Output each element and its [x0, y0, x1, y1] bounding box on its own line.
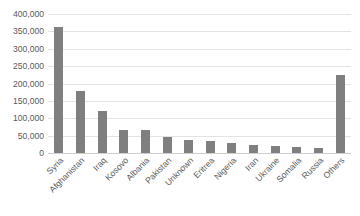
bar-slot [221, 14, 243, 153]
x-axis-tick-label: Iraq [92, 156, 109, 173]
bar-slot [91, 14, 113, 153]
y-axis-tick-label: 50,000 [0, 131, 44, 140]
x-axis-tick-label: Iran [243, 156, 260, 173]
x-axis-slot: Nigeria [221, 153, 243, 216]
bar[interactable] [249, 145, 258, 153]
x-axis-slot: Unknown [178, 153, 200, 216]
x-axis-slot: Kosovo [113, 153, 135, 216]
bar-slot [156, 14, 178, 153]
x-axis-slot: Albania [135, 153, 157, 216]
bar[interactable] [206, 141, 215, 153]
y-axis-tick-label: 100,000 [0, 114, 44, 123]
y-axis-tick-label: 250,000 [0, 62, 44, 71]
bar-slot [308, 14, 330, 153]
x-axis-slot: Iraq [91, 153, 113, 216]
y-axis-tick-label: 150,000 [0, 97, 44, 106]
y-axis-tick-label: 400,000 [0, 10, 44, 19]
y-axis-tick-label: 200,000 [0, 79, 44, 88]
bar[interactable] [54, 27, 63, 153]
x-axis-slot: Afghanistan [70, 153, 92, 216]
bar[interactable] [119, 130, 128, 153]
y-axis-tick-label: 300,000 [0, 44, 44, 53]
bar[interactable] [163, 137, 172, 153]
bar-slot [113, 14, 135, 153]
y-axis-tick-label: 0 [0, 149, 44, 158]
x-axis-slot: Iran [243, 153, 265, 216]
bar-slot [329, 14, 351, 153]
bar-slot [48, 14, 70, 153]
bar[interactable] [98, 111, 107, 153]
bar-slot [178, 14, 200, 153]
bar[interactable] [227, 143, 236, 153]
bar-slot [135, 14, 157, 153]
bar-series [48, 14, 351, 153]
bar-slot [286, 14, 308, 153]
x-axis-slot: Somalia [286, 153, 308, 216]
x-axis-slot: Eritrea [199, 153, 221, 216]
y-axis: 400,000350,000300,000250,000200,000150,0… [0, 14, 44, 153]
x-axis-slot: Others [329, 153, 351, 216]
bar[interactable] [336, 75, 345, 153]
x-axis-slot: Russia [308, 153, 330, 216]
bar-slot [70, 14, 92, 153]
bar-slot [199, 14, 221, 153]
bar[interactable] [76, 91, 85, 153]
x-axis-slot: Ukraine [264, 153, 286, 216]
bar-slot [264, 14, 286, 153]
x-axis: SyriaAfghanistanIraqKosovoAlbaniaPakista… [48, 153, 351, 216]
y-axis-tick-label: 350,000 [0, 27, 44, 36]
plot-area [48, 14, 351, 153]
bar[interactable] [141, 130, 150, 153]
bar[interactable] [184, 140, 193, 153]
bar-chart: 400,000350,000300,000250,000200,000150,0… [0, 0, 360, 216]
bar[interactable] [271, 146, 280, 153]
bar-slot [243, 14, 265, 153]
